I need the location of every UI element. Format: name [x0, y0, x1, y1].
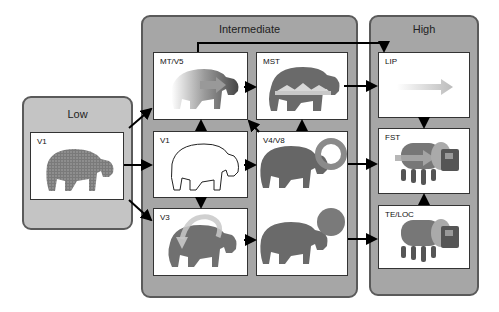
box-low-v1: V1	[30, 132, 124, 200]
gradient-arrow-icon	[379, 53, 471, 119]
box-mt-v5: MT/V5	[153, 52, 248, 120]
box-fst: FST	[378, 128, 470, 194]
box-lip: LIP	[378, 52, 470, 118]
panel-title-low: Low	[24, 108, 131, 120]
hippo-rotation-icon	[154, 209, 249, 277]
tanker-truck-arrow-icon	[379, 129, 471, 195]
motion-hippo-icon	[154, 53, 249, 121]
box-v1: V1	[153, 131, 248, 198]
panel-title-intermediate: Intermediate	[143, 23, 356, 35]
textured-hippo-icon	[31, 133, 125, 201]
hippo-outline-icon	[154, 132, 249, 199]
box-v3: V3	[153, 208, 248, 276]
box-mst: MST	[256, 52, 348, 120]
hippo-flow-icon	[257, 53, 349, 121]
color-hippos-icon	[257, 132, 349, 277]
tanker-truck-icon	[379, 206, 471, 270]
box-te-loc: TE/LOC	[378, 205, 470, 269]
panel-title-high: High	[371, 23, 477, 35]
box-v4-v8: V4/V8	[256, 131, 348, 276]
